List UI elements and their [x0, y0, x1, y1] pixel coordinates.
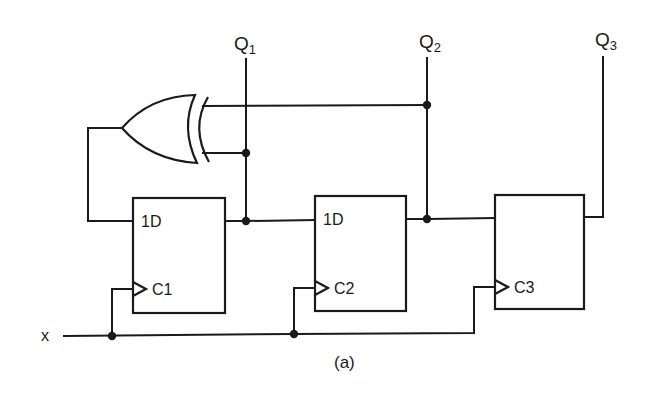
ff2-data-label: 1D — [323, 211, 343, 228]
figure-caption: (a) — [334, 353, 355, 372]
wire-clock-ff1 — [112, 289, 133, 336]
flip-flop-1: 1D C1 — [133, 198, 225, 313]
ff3-clock-label: C3 — [514, 279, 535, 296]
flip-flop-3: C3 — [495, 195, 584, 309]
junction-dot — [242, 149, 250, 157]
xor-gate — [122, 95, 209, 163]
junction-dot — [108, 332, 116, 340]
output-label-q3: Q3 — [595, 29, 617, 53]
wire-xor-output-feedback — [88, 128, 133, 221]
svg-text:Q3: Q3 — [595, 29, 617, 53]
svg-text:Q1: Q1 — [234, 33, 256, 57]
wire-ff2-to-ff3 — [406, 218, 495, 219]
output-label-q2: Q2 — [419, 31, 441, 55]
junction-dot — [290, 330, 298, 338]
ff1-data-label: 1D — [141, 213, 161, 230]
junction-dot — [423, 215, 431, 223]
ff2-clock-label: C2 — [334, 280, 355, 297]
circuit-diagram: Q1 Q2 Q3 1D C1 1D C2 — [0, 0, 645, 403]
wire-clock-ff2 — [294, 288, 315, 334]
input-label-x: x — [41, 327, 49, 344]
junction-dot — [423, 101, 431, 109]
wire-ff1-to-ff2 — [225, 220, 315, 221]
wire-q3 — [584, 57, 603, 217]
ff1-clock-label: C1 — [152, 281, 173, 298]
junction-dot — [242, 217, 250, 225]
svg-text:Q2: Q2 — [419, 31, 441, 55]
flip-flop-2: 1D C2 — [315, 196, 406, 311]
output-label-q1: Q1 — [234, 33, 256, 57]
wire-clock-bus — [64, 287, 495, 336]
wire-xor-input-q2 — [203, 105, 427, 106]
